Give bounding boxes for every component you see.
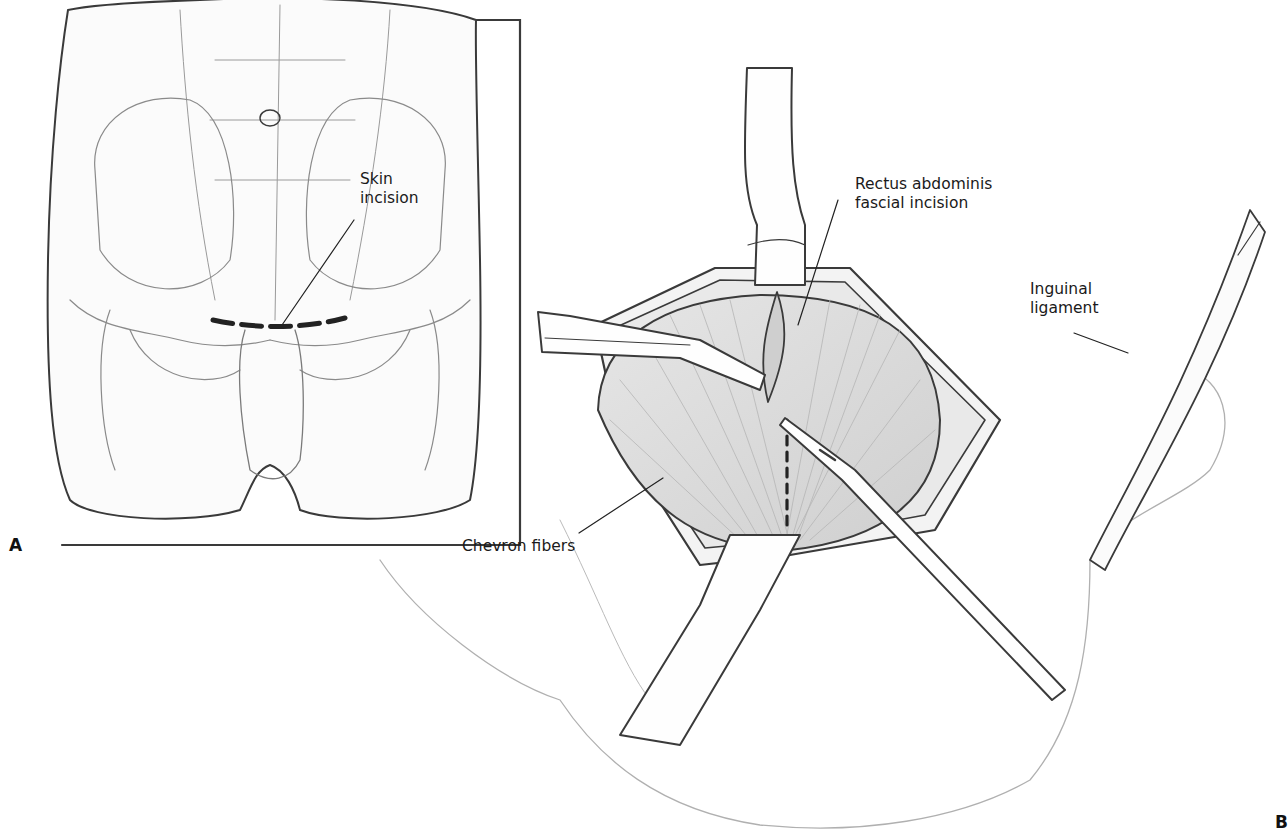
label-skin-incision: Skin incision [360, 170, 419, 208]
panel-a-drawing [48, 0, 520, 545]
panel-b-drawing [380, 68, 1265, 828]
label-chevron-fibers: Chevron fibers [462, 537, 575, 556]
label-rectus-fascial-incision: Rectus abdominis fascial incision [855, 175, 992, 213]
label-inguinal-ligament: Inguinal ligament [1030, 280, 1099, 318]
panel-letter-a: A [9, 535, 22, 555]
panel-letter-b: B [1275, 812, 1288, 832]
